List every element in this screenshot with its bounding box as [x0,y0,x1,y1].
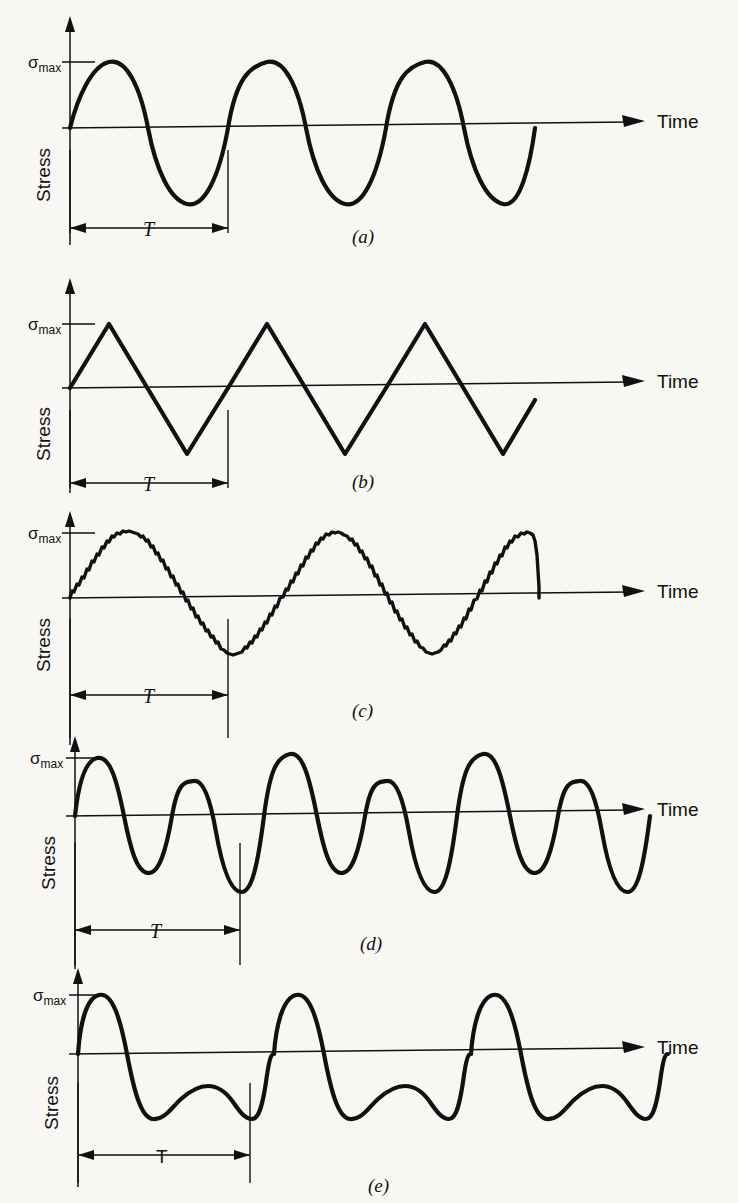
panel-c: Stress Time σmax T (c) [0,495,738,750]
sigma-max-label-c: σmax [28,524,61,546]
waveform-d [75,754,650,892]
y-axis-label-c: Stress [33,618,54,672]
y-axis-label-d: Stress [38,836,59,890]
sigma-max-label-d: σmax [30,749,63,771]
y-axis-label-b: Stress [33,407,54,461]
x-axis-b [62,375,645,388]
panel-letter-b: (b) [352,471,374,493]
stress-time-waveform-figure: Stress Time σmax T (a) [0,0,738,1203]
panel-e: Stress Time σmax T (e) [0,955,738,1203]
period-label-a: T [143,218,156,240]
period-label-b: T [143,473,156,495]
x-axis-label-d: Time [657,799,699,820]
period-label-d: T [150,920,163,942]
period-label-e: T [156,1146,168,1167]
panel-letter-d: (d) [360,933,382,955]
panel-letter-a: (a) [352,226,374,248]
x-axis-label-e: Time [657,1037,699,1058]
x-axis-label-c: Time [657,581,699,602]
panel-a: Stress Time σmax T (a) [0,0,738,250]
y-axis-label-a: Stress [33,148,54,202]
panel-d: Stress Time σmax T (d) [0,733,738,973]
sigma-max-label-a: σmax [28,53,61,75]
waveform-e [78,995,668,1119]
y-axis-label-e: Stress [41,1076,62,1130]
waveform-b [70,324,535,454]
sigma-max-label-b: σmax [28,315,61,337]
panel-letter-e: (e) [368,1175,389,1197]
period-dimension-c [70,619,228,738]
waveform-a [70,62,535,205]
x-axis-label-b: Time [657,371,699,392]
sigma-max-label-e: σmax [33,986,66,1008]
x-axis-c [62,585,645,598]
period-dimension-e [78,1083,250,1183]
x-axis-e [69,1041,645,1054]
x-axis-label-a: Time [657,111,699,132]
panel-letter-c: (c) [352,700,373,722]
panel-b: Stress Time σmax T (b) [0,248,738,498]
period-label-c: T [143,685,156,707]
period-dimension-d [75,843,240,965]
